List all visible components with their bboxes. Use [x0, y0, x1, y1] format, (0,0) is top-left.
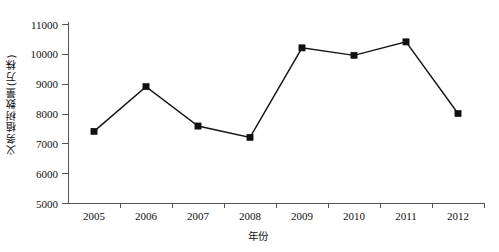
data-point-marker [299, 45, 305, 51]
series-plot [0, 0, 499, 252]
data-point-marker [195, 123, 201, 129]
x-axis-title: 年份 [0, 228, 499, 243]
data-point-marker [91, 128, 97, 134]
data-point-marker [455, 110, 461, 116]
chart-container: 义务植树数量(万株) 50006000700080009000100001100… [0, 0, 499, 252]
series-markers [91, 39, 461, 141]
x-axis-title-text: 年份 [248, 230, 268, 242]
data-point-marker [403, 39, 409, 45]
data-point-marker [143, 84, 149, 90]
data-point-marker [351, 52, 357, 58]
data-point-marker [247, 134, 253, 140]
